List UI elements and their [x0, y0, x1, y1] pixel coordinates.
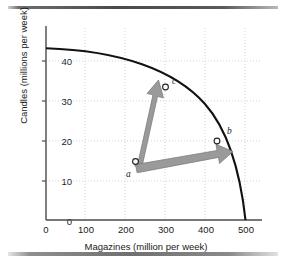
arrow-a-to-b [136, 144, 234, 172]
chart-plot-area [0, 0, 286, 273]
vertical-gridlines [85, 28, 245, 220]
data-point-marker-a[interactable] [133, 159, 139, 165]
arrow-a-to-c [135, 80, 164, 166]
data-point-marker-c[interactable] [163, 84, 169, 90]
data-point-marker-b[interactable] [214, 138, 220, 144]
footer-caption [12, 262, 278, 271]
figure-container: Candles (millions per week) Magazines (m… [0, 0, 286, 273]
